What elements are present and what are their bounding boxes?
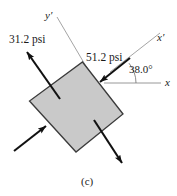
tension-stress-label: 31.2 psi: [9, 34, 45, 46]
stress-element-figure: [0, 0, 177, 196]
y-prime-axis: [57, 17, 87, 68]
y-prime-axis-label: y′: [45, 10, 52, 21]
compression-stress-label: 51.2 psi: [86, 52, 122, 64]
x-axis-label: x: [165, 77, 170, 88]
angle-label: 38.0°: [129, 64, 153, 75]
x-prime-axis-label: x′: [157, 32, 164, 43]
figure-caption: (c): [81, 176, 93, 187]
compression-arrow-lower-left: [14, 126, 46, 151]
